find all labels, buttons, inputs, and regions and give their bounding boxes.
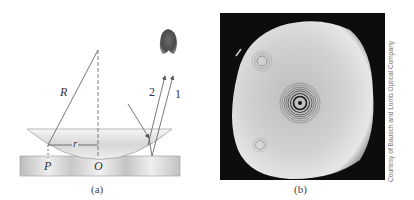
label-ray-1: 1 [175,88,181,100]
newton-rings-center-dot [298,101,302,105]
photo-credit: Courtesy of Bausch and Lomb Optical Comp… [387,12,394,182]
caption-a: (a) [91,183,103,195]
label-O: O [94,160,103,172]
caption-b: (b) [294,183,307,195]
photo-lens-disk [232,21,373,179]
panel-b-photo [220,13,385,180]
panel-a-diagram [20,29,180,176]
label-P: P [44,160,51,172]
label-R: R [60,86,67,98]
label-ray-2: 2 [149,86,155,98]
label-r: r [72,138,78,149]
eye-icon [160,29,177,54]
figure-canvas [0,0,414,200]
